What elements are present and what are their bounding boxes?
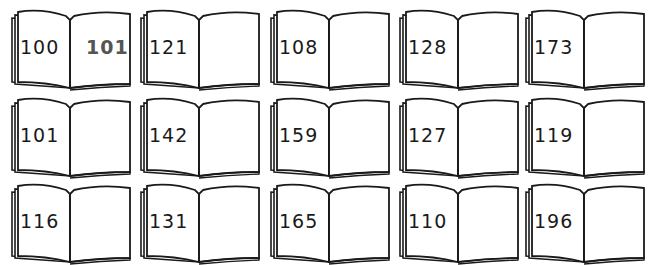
open-book: 159 xyxy=(265,90,395,178)
open-book: 165 xyxy=(265,176,395,264)
left-page-number: 165 xyxy=(279,212,318,231)
left-page-number: 127 xyxy=(408,126,447,145)
left-page-number: 108 xyxy=(279,38,318,57)
open-book: 119 xyxy=(520,90,650,178)
open-book: 110 xyxy=(394,176,524,264)
left-page-number: 119 xyxy=(534,126,573,145)
right-page-number: 101 xyxy=(86,38,129,57)
left-page-number: 173 xyxy=(534,38,573,57)
open-book: 142 xyxy=(135,90,265,178)
open-book: 128 xyxy=(394,2,524,90)
left-page-number: 110 xyxy=(408,212,447,231)
book-grid: 100101 121 108 128 173 101 xyxy=(0,0,656,265)
open-book: 121 xyxy=(135,2,265,90)
left-page-number: 100 xyxy=(20,38,59,57)
open-book: 131 xyxy=(135,176,265,264)
left-page-number: 121 xyxy=(149,38,188,57)
open-book: 116 xyxy=(6,176,136,264)
left-page-number: 159 xyxy=(279,126,318,145)
left-page-number: 142 xyxy=(149,126,188,145)
open-book: 196 xyxy=(520,176,650,264)
left-page-number: 116 xyxy=(20,212,59,231)
left-page-number: 131 xyxy=(149,212,188,231)
left-page-number: 101 xyxy=(20,126,59,145)
left-page-number: 196 xyxy=(534,212,573,231)
open-book: 100101 xyxy=(6,2,136,90)
open-book: 127 xyxy=(394,90,524,178)
open-book: 173 xyxy=(520,2,650,90)
left-page-number: 128 xyxy=(408,38,447,57)
open-book: 101 xyxy=(6,90,136,178)
open-book: 108 xyxy=(265,2,395,90)
